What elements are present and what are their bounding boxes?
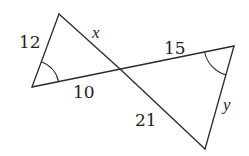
side-21 [120, 69, 205, 149]
label-15: 15 [164, 38, 186, 58]
angle-mark-bottom-left [41, 62, 58, 82]
label-12: 12 [19, 32, 41, 52]
similar-triangles-diagram: 12 x 10 15 21 y [0, 0, 249, 156]
label-21: 21 [135, 110, 157, 130]
label-y: y [221, 95, 231, 114]
angle-mark-right [205, 52, 226, 75]
label-10: 10 [73, 82, 95, 102]
side-top-x [59, 14, 120, 69]
label-x: x [91, 23, 100, 42]
